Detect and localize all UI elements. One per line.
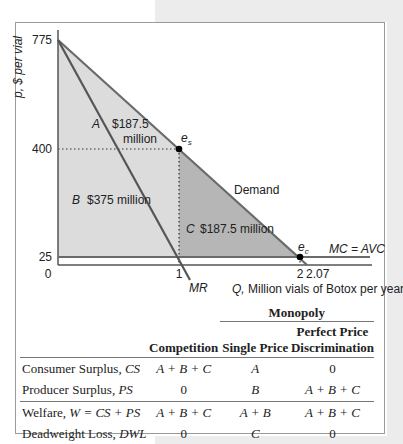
x-tick-2: 2 — [297, 267, 304, 281]
mc-label: MC = AVC — [329, 242, 385, 256]
region-c-label: C — [186, 222, 195, 236]
col-header-single-price: Single Price — [220, 340, 291, 358]
table-row: Producer Surplus, PS 0 B A + B + C — [20, 380, 374, 402]
surplus-table: Monopoly Perfect Price Competition Singl… — [20, 305, 374, 444]
col-header-perfect-1: Perfect Price — [291, 322, 374, 340]
point-ec — [297, 254, 304, 261]
region-b-label: B — [72, 193, 80, 207]
y-tick-775: 775 — [32, 33, 52, 47]
mr-label: MR — [189, 281, 208, 295]
region-a-value-1: $187.5 — [112, 117, 149, 131]
y-axis-label: p, $ per vial — [11, 17, 25, 117]
y-tick-25: 25 — [39, 250, 53, 264]
region-a-value-2: million — [123, 132, 157, 146]
region-b-value: $375 million — [87, 193, 151, 207]
table-row: Deadweight Loss, DWL 0 C 0 — [20, 424, 374, 444]
x-tick-0: 0 — [45, 267, 52, 281]
ec-label: ec — [298, 240, 309, 256]
col-header-competition: Competition — [148, 340, 220, 358]
y-tick-400: 400 — [32, 142, 52, 156]
region-c-value: $187.5 million — [200, 222, 274, 236]
col-header-perfect-2: Discrimination — [291, 340, 374, 358]
x-axis-label: Q, Million vials of Botox per year — [232, 282, 403, 296]
es-label: es — [181, 131, 192, 147]
demand-label: Demand — [234, 183, 279, 197]
table-row: Consumer Surplus, CS A + B + C A 0 — [20, 358, 374, 380]
point-es — [176, 146, 183, 153]
x-tick-1: 1 — [176, 267, 183, 281]
group-header-monopoly: Monopoly — [220, 305, 374, 322]
region-a-label: A — [91, 117, 100, 131]
table-row: Welfare, W = CS + PS A + B + C A + B A +… — [20, 402, 374, 424]
x-tick-2-07: 2.07 — [306, 267, 330, 281]
